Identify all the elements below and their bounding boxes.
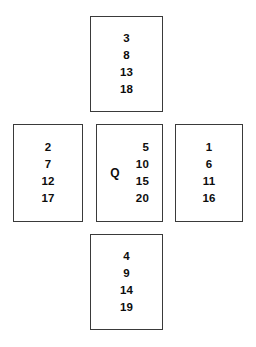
- card-top-number: 13: [120, 65, 133, 80]
- card-top-number-stack: 3 8 13 18: [91, 31, 162, 97]
- card-right-number: 6: [206, 157, 213, 172]
- card-center-number: 5: [142, 140, 149, 155]
- card-right-number-stack: 1 6 11 16: [176, 140, 242, 206]
- card-bottom-number: 9: [123, 266, 130, 281]
- card-left[interactable]: 2 7 12 17: [13, 124, 83, 222]
- card-right-number: 1: [206, 140, 213, 155]
- card-center[interactable]: Q 5 10 15 20: [96, 124, 163, 222]
- card-right-number: 16: [202, 191, 215, 206]
- card-bottom-number-stack: 4 9 14 19: [91, 249, 162, 315]
- card-left-number-stack: 2 7 12 17: [14, 140, 82, 206]
- card-center-number: 15: [136, 174, 149, 189]
- card-cross-diagram: 3 8 13 18 2 7 12 17 Q 5 10 15 20 1: [0, 0, 256, 347]
- card-top-number: 8: [123, 48, 130, 63]
- card-bottom-number: 4: [123, 249, 130, 264]
- card-left-number: 7: [45, 157, 52, 172]
- card-top-number: 3: [123, 31, 130, 46]
- card-right[interactable]: 1 6 11 16: [175, 124, 243, 222]
- card-center-number: 10: [136, 157, 149, 172]
- card-bottom-number: 14: [120, 283, 133, 298]
- card-top-number: 18: [120, 82, 133, 97]
- card-left-number: 12: [41, 174, 54, 189]
- card-right-number: 11: [203, 174, 216, 189]
- card-bottom-number: 19: [120, 300, 133, 315]
- card-center-number: 20: [136, 191, 149, 206]
- card-left-number: 2: [45, 140, 52, 155]
- card-center-number-stack: 5 10 15 20: [133, 140, 162, 206]
- card-bottom[interactable]: 4 9 14 19: [90, 234, 163, 330]
- card-center-inner: Q 5 10 15 20: [97, 125, 162, 221]
- card-center-label: Q: [97, 166, 133, 181]
- card-top[interactable]: 3 8 13 18: [90, 16, 163, 112]
- card-left-number: 17: [41, 191, 54, 206]
